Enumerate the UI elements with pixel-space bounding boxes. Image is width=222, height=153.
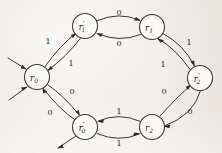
- edge-label-r1-to-r1p: 0: [116, 39, 121, 48]
- node-r0p-subscript: 0: [81, 126, 85, 133]
- node-r1[interactable]: r1: [140, 15, 165, 40]
- edge-label-r1p-to-r0: 1: [68, 59, 73, 68]
- edge-r1-to-r1p: [96, 33, 140, 38]
- edge-label-r1p-to-r1: 0: [116, 8, 121, 17]
- external-arrow-into-r0-upper: [8, 58, 27, 69]
- edge-r2-to-r0p: [97, 117, 140, 123]
- edge-label-r0p-to-r2: 1: [116, 139, 121, 148]
- edge-label-r0p-to-r0: 0: [47, 108, 52, 117]
- node-r1-prime[interactable]: r′1: [73, 14, 98, 39]
- edge-label-r2p-to-r2: 0: [187, 107, 192, 116]
- node-r2p-subscript: 2: [195, 77, 200, 84]
- external-arrow-out-of-r0p-lower: [57, 136, 76, 148]
- node-r2[interactable]: r2: [140, 115, 165, 140]
- diagram-canvas: r0 r′1 r1 r′2 r2: [0, 0, 222, 153]
- edge-label-r2-to-r0p: 1: [116, 107, 121, 116]
- node-r2-prime[interactable]: r′2: [188, 66, 213, 91]
- svg-text:r′2: r′2: [194, 71, 201, 84]
- svg-text:r′0: r′0: [79, 120, 86, 133]
- node-r0[interactable]: r0: [25, 65, 50, 90]
- edge-r0p-to-r2: [97, 133, 140, 139]
- node-r0-prime[interactable]: r′0: [73, 115, 98, 140]
- edge-label-r0-to-r1p: 1: [45, 37, 50, 46]
- external-arrow-into-r0-lower: [9, 87, 27, 100]
- svg-text:r′1: r′1: [79, 19, 86, 32]
- edge-label-r1-to-r2p: 1: [186, 38, 191, 47]
- edge-r2p-to-r2: [164, 91, 201, 129]
- node-r2-subscript: 2: [148, 126, 153, 133]
- edge-label-r0-to-r0p: 0: [69, 87, 74, 96]
- state-transition-graph: r0 r′1 r1 r′2 r2: [0, 0, 222, 153]
- edge-label-r2p-to-r1: 1: [160, 60, 165, 69]
- edge-label-r2-to-r2p: 0: [161, 87, 166, 96]
- node-r0-subscript: 0: [34, 76, 38, 83]
- node-r1p-subscript: 1: [81, 25, 85, 32]
- node-r1-subscript: 1: [149, 26, 153, 33]
